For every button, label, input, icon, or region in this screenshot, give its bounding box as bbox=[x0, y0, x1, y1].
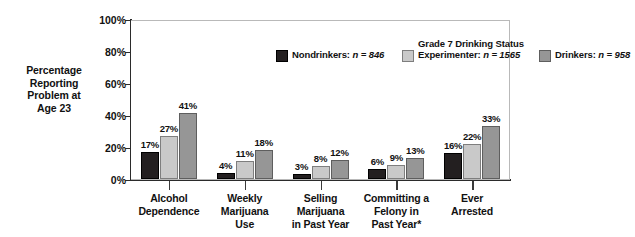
x-axis-label-line: Felony in bbox=[358, 205, 434, 218]
x-axis-label-line: Past Year* bbox=[358, 218, 434, 231]
chart-legend: Nondrinkers: n = 846 Grade 7 Drinking St… bbox=[262, 41, 635, 77]
x-axis-label-line: Selling bbox=[283, 192, 359, 205]
x-axis-label-committing-a-felony-in-past-year-: Committing aFelony inPast Year* bbox=[358, 192, 434, 231]
legend-swatch-drinkers bbox=[539, 50, 551, 62]
x-axis-label-alcohol-dependence: AlcoholDependence bbox=[131, 192, 207, 218]
x-axis-label-line: Committing a bbox=[358, 192, 434, 205]
bar-drinkers-committing-a-felony-in-past-year- bbox=[406, 158, 424, 179]
x-axis-label-line: Dependence bbox=[131, 205, 207, 218]
y-axis-tick-mark bbox=[125, 180, 131, 181]
bar-nondrinkers-alcohol-dependence bbox=[141, 152, 159, 179]
legend-label-experimenter: Experimenter: n = 1565 bbox=[418, 49, 520, 60]
bar-experimenter-alcohol-dependence bbox=[160, 136, 178, 179]
x-axis-label-weekly-marijuana-use: WeeklyMarijuanaUse bbox=[207, 192, 283, 231]
legend-title: Grade 7 Drinking Status bbox=[418, 38, 524, 49]
legend-label-drinkers: Drinkers: n = 958 bbox=[555, 49, 630, 60]
x-axis-label-line: Use bbox=[207, 218, 283, 231]
x-axis-label-line: Marijuana bbox=[283, 205, 359, 218]
bar-drinkers-alcohol-dependence bbox=[179, 113, 197, 179]
x-axis-tick-mark bbox=[472, 181, 474, 190]
bar-nondrinkers-weekly-marijuana-use bbox=[217, 173, 235, 179]
y-axis-tick-label-20: 20% bbox=[78, 142, 126, 154]
x-axis-label-line: Weekly bbox=[207, 192, 283, 205]
legend-label-nondrinkers: Nondrinkers: n = 846 bbox=[292, 49, 384, 60]
x-axis-label-line: Alcohol bbox=[131, 192, 207, 205]
x-axis-tick-mark bbox=[321, 181, 323, 190]
bar-group: 17%27%41% bbox=[141, 19, 197, 179]
bar-drinkers-weekly-marijuana-use bbox=[255, 150, 273, 179]
y-axis-tick-label-80: 80% bbox=[78, 46, 126, 58]
x-axis-tick-mark bbox=[169, 181, 171, 190]
bar-drinkers-selling-marijuana-in-past-year bbox=[331, 160, 349, 179]
bar-value-label: 33% bbox=[478, 113, 504, 124]
x-axis-tick-mark bbox=[396, 181, 398, 190]
x-axis-label-ever-arrested: EverArrested bbox=[434, 192, 510, 218]
legend-swatch-experimenter bbox=[402, 50, 414, 62]
bar-experimenter-ever-arrested bbox=[463, 144, 481, 179]
legend-swatch-nondrinkers bbox=[276, 50, 288, 62]
bar-drinkers-ever-arrested bbox=[482, 126, 500, 179]
bar-experimenter-committing-a-felony-in-past-year- bbox=[387, 165, 405, 179]
x-axis-label-line: in Past Year bbox=[283, 218, 359, 231]
bar-value-label: 13% bbox=[402, 145, 428, 156]
plot-area: 17%27%41%4%11%18%3%8%12%6%9%13%16%22%33%… bbox=[131, 20, 510, 180]
bar-nondrinkers-committing-a-felony-in-past-year- bbox=[368, 169, 386, 179]
x-axis-label-selling-marijuana-in-past-year: SellingMarijuanain Past Year bbox=[283, 192, 359, 231]
y-axis-title-line-3: Problem at bbox=[6, 89, 102, 102]
x-axis-label-line: Ever bbox=[434, 192, 510, 205]
bar-value-label: 12% bbox=[327, 147, 353, 158]
bar-experimenter-selling-marijuana-in-past-year bbox=[312, 166, 330, 179]
y-axis-tick-label-100: 100% bbox=[78, 14, 126, 26]
bar-value-label: 18% bbox=[251, 137, 277, 148]
x-axis-label-line: Arrested bbox=[434, 205, 510, 218]
x-axis-tick-mark bbox=[245, 181, 247, 190]
x-axis-label-line: Marijuana bbox=[207, 205, 283, 218]
y-axis-title-line-1: Percentage bbox=[6, 64, 102, 77]
y-axis-tick-label-40: 40% bbox=[78, 110, 126, 122]
bar-nondrinkers-ever-arrested bbox=[444, 153, 462, 179]
bar-nondrinkers-selling-marijuana-in-past-year bbox=[293, 174, 311, 179]
bar-experimenter-weekly-marijuana-use bbox=[236, 161, 254, 179]
bar-value-label: 41% bbox=[175, 100, 201, 111]
y-axis-tick-label-60: 60% bbox=[78, 78, 126, 90]
y-axis-tick-label-0: 0% bbox=[78, 174, 126, 186]
